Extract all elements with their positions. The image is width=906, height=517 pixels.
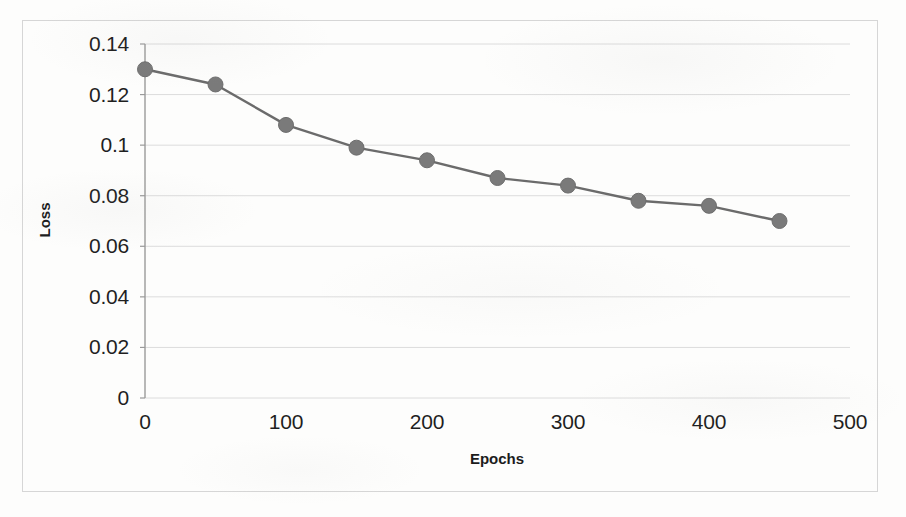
y-axis-tick-label: 0.06 (0, 234, 129, 258)
axis-lines-group (140, 44, 145, 398)
x-axis-tick-label: 500 (833, 410, 867, 434)
data-point-marker (138, 62, 153, 77)
y-axis-tick-label: 0.1 (0, 133, 129, 157)
x-axis-tick-label: 0 (139, 410, 150, 434)
y-axis-tick-label: 0 (0, 386, 129, 410)
x-axis-tick-label: 100 (269, 410, 303, 434)
data-point-marker (490, 171, 505, 186)
y-axis-tick-label: 0.02 (0, 335, 129, 359)
data-point-marker (561, 178, 576, 193)
data-point-marker (772, 214, 787, 229)
data-point-marker (420, 153, 435, 168)
x-axis-tick-label: 300 (551, 410, 585, 434)
data-point-marker (208, 77, 223, 92)
y-axis-title: Loss (36, 202, 53, 237)
y-axis-tick-label: 0.04 (0, 285, 129, 309)
x-axis-tick-label: 200 (410, 410, 444, 434)
x-axis-title: Epochs (470, 450, 524, 467)
data-point-marker (279, 117, 294, 132)
y-axis-tick-label: 0.12 (0, 83, 129, 107)
y-axis-tick-label: 0.14 (0, 32, 129, 56)
x-axis-tick-label: 400 (692, 410, 726, 434)
y-axis-tick-label: 0.08 (0, 184, 129, 208)
chart-figure: 00.020.040.060.080.10.120.14010020030040… (0, 0, 906, 517)
data-point-marker (702, 198, 717, 213)
gridlines-group (145, 44, 850, 398)
data-point-marker (349, 140, 364, 155)
plot-canvas (0, 0, 906, 517)
data-point-marker (631, 193, 646, 208)
